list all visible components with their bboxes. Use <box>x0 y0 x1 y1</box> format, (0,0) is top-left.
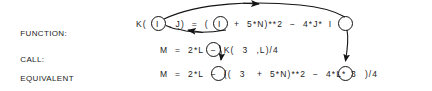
row-label-equivalent-line1: EQUIVALENT <box>20 74 74 83</box>
function-code-prefix: K( <box>136 19 150 29</box>
arrow-function-i-to-equivalent-3 <box>346 30 348 61</box>
code-line-function: K( I , J) = ( I + 5*N)**2 − 4*J*I <box>136 19 338 29</box>
call-arg1-circle <box>206 42 221 57</box>
row-label-equivalent: EQUIVALENT EXPRESSION: <box>10 64 74 91</box>
equivalent-arg1-circle <box>211 66 226 81</box>
equivalent-code-mid: + 5*N)**2 − 4*L* <box>250 69 346 79</box>
function-arg3-slot: I <box>323 19 338 29</box>
statement-function-diagram: FUNCTION: CALL: EQUIVALENT EXPRESSION: K… <box>0 0 432 91</box>
arrow-param-i-to-second-i-head <box>188 30 203 32</box>
function-code-mid1: , J) = ( <box>165 19 212 29</box>
call-code-tail: ,L)/4 <box>253 45 279 55</box>
call-code-prefix: M = 2*L − K( <box>160 45 238 55</box>
call-arg1-slot: 3 <box>238 45 253 55</box>
arrow-param-i-to-third-i-head <box>243 3 259 4</box>
row-label-function-text: FUNCTION: <box>20 29 67 38</box>
equivalent-arg1-slot: 3 <box>235 69 250 79</box>
equivalent-code-tail: )/4 <box>361 69 378 79</box>
function-arg3-circle <box>338 16 353 31</box>
function-arg2-circle <box>213 16 228 31</box>
row-label-call-text: CALL: <box>20 55 44 64</box>
arrow-param-i-to-third-i <box>164 3 345 19</box>
function-arg1-circle <box>151 16 166 31</box>
equivalent-arg2-circle <box>338 66 353 81</box>
function-code-mid2: + 5*N)**2 − 4*J* <box>227 19 323 29</box>
